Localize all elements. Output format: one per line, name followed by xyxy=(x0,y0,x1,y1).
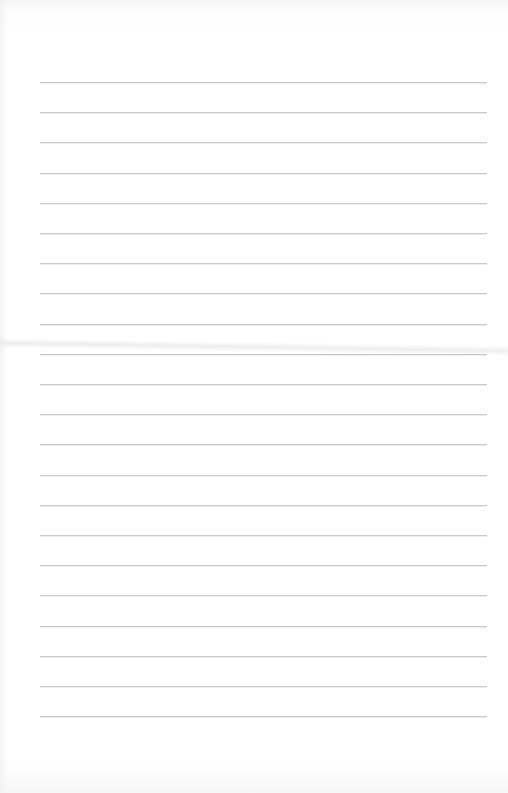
ruled-line xyxy=(40,324,487,325)
ruled-line xyxy=(40,686,487,687)
ruled-line xyxy=(40,595,487,596)
ruled-line xyxy=(40,565,487,566)
ruled-line xyxy=(40,505,487,506)
ruled-line xyxy=(40,414,487,415)
ruled-line xyxy=(40,233,487,234)
ruled-line xyxy=(40,263,487,264)
ruled-line xyxy=(40,112,487,113)
ruled-line xyxy=(40,173,487,174)
ruled-line xyxy=(40,656,487,657)
ruled-line xyxy=(40,82,487,83)
ruled-line xyxy=(40,716,487,717)
ruled-line xyxy=(40,384,487,385)
ruled-line xyxy=(40,142,487,143)
ruled-line xyxy=(40,444,487,445)
lined-paper-page xyxy=(0,0,508,793)
ruled-line xyxy=(40,293,487,294)
ruled-line xyxy=(40,626,487,627)
ruled-line xyxy=(40,535,487,536)
ruled-line xyxy=(40,354,487,355)
ruled-line xyxy=(40,203,487,204)
ruled-line xyxy=(40,475,487,476)
